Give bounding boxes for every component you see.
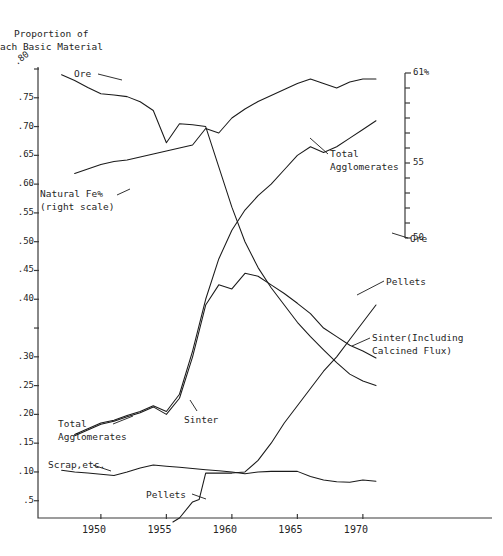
y-tick-label: .15 bbox=[6, 437, 34, 447]
y-tick-label: .5 bbox=[6, 495, 34, 505]
chart-canvas: Proportion of ach Basic Material .80.75.… bbox=[0, 0, 503, 556]
leader-line bbox=[98, 74, 122, 80]
y-tick-label: .10 bbox=[6, 466, 34, 476]
annotation-leaders bbox=[93, 74, 408, 499]
series-line bbox=[62, 75, 376, 386]
leader-line bbox=[190, 400, 197, 411]
annotation-ore-top: Ore bbox=[74, 68, 91, 81]
annotation-total-agglomerates-left: Total Agglomerates bbox=[58, 418, 127, 443]
series-group bbox=[62, 75, 376, 522]
annotation-total-agglomerates-right: Total Agglomerates bbox=[330, 148, 399, 173]
x-tick-label: 1965 bbox=[278, 524, 302, 535]
leader-line bbox=[310, 138, 328, 154]
y-tick-label: .25 bbox=[6, 380, 34, 390]
annotation-pellets-right: Pellets bbox=[386, 276, 426, 289]
y-tick-label: .30 bbox=[6, 351, 34, 361]
x-tick-label: 1950 bbox=[82, 524, 106, 535]
x-tick-label: 1960 bbox=[213, 524, 237, 535]
y-right-tick-label: 61% bbox=[413, 67, 429, 77]
plot-svg bbox=[0, 0, 503, 556]
y-tick-label: .40 bbox=[6, 293, 34, 303]
y-tick-label: .45 bbox=[6, 264, 34, 274]
leader-line bbox=[352, 338, 370, 346]
annotation-sinter-left: Sinter bbox=[184, 414, 218, 427]
leader-line bbox=[117, 189, 130, 195]
y-tick-label: .55 bbox=[6, 207, 34, 217]
axes-group bbox=[34, 67, 492, 519]
annotation-natural-fe: Natural Fe% (right scale) bbox=[40, 188, 114, 213]
y-tick-label: .70 bbox=[6, 121, 34, 131]
y-tick-label: .75 bbox=[6, 92, 34, 102]
y-right-tick-label: 55 bbox=[413, 157, 424, 167]
annotation-sinter-right: Sinter(Including Calcined Flux) bbox=[372, 332, 464, 357]
series-line bbox=[62, 465, 376, 482]
leader-line bbox=[357, 281, 384, 295]
annotation-pellets-bottom: Pellets bbox=[146, 489, 186, 502]
y-tick-label: .20 bbox=[6, 408, 34, 418]
series-line bbox=[75, 273, 376, 435]
annotation-scrap: Scrap,etc. bbox=[48, 459, 105, 472]
y-tick-label: .60 bbox=[6, 178, 34, 188]
annotation-ore-right: Ore bbox=[410, 233, 427, 246]
x-tick-label: 1970 bbox=[344, 524, 368, 535]
x-tick-label: 1955 bbox=[147, 524, 171, 535]
y-tick-label: .65 bbox=[6, 149, 34, 159]
y-tick-label: .50 bbox=[6, 236, 34, 246]
